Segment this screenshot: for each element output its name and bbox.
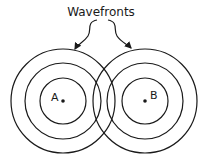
source-a-label: A: [51, 91, 59, 104]
left-arrow-icon: [75, 20, 97, 49]
diagram-canvas: Wavefronts A B: [0, 0, 203, 159]
source-b-wavefronts: B: [93, 49, 197, 153]
source-b-dot: [143, 99, 147, 103]
source-a-wavefronts: A: [11, 49, 115, 153]
right-arrow-icon: [108, 20, 131, 48]
wavefronts-title: Wavefronts: [67, 5, 135, 19]
source-a-dot: [61, 99, 65, 103]
source-b-label: B: [150, 89, 158, 102]
wavefront-diagram: Wavefronts A B: [0, 0, 203, 159]
